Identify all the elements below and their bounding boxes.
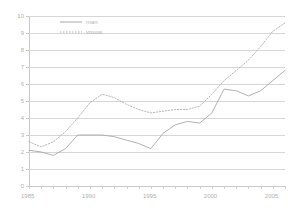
x-tick-mark: [78, 186, 79, 189]
x-tick-mark: [273, 186, 274, 189]
y-tick-label: 6: [21, 81, 24, 87]
x-tick-mark: [200, 186, 201, 189]
x-tick-mark: [53, 186, 54, 189]
x-tick-mark: [90, 186, 91, 189]
y-tick-label: 3: [21, 132, 24, 138]
x-tick-mark: [66, 186, 67, 189]
x-tick-label: 1995: [143, 193, 156, 200]
legend-item-man: man: [60, 18, 102, 26]
x-tick-mark: [29, 186, 30, 189]
x-tick-mark: [236, 186, 237, 189]
y-tick-label: 1: [21, 166, 24, 172]
x-tick-mark: [175, 186, 176, 189]
x-tick-mark: [285, 186, 286, 189]
legend-line-solid-icon: [60, 20, 82, 24]
x-tick-mark: [187, 186, 188, 189]
legend-line-dotted-icon: [60, 30, 82, 34]
plot-area: [29, 16, 285, 186]
y-tick-label: 0: [21, 183, 24, 189]
x-tick-mark: [151, 186, 152, 189]
x-tick-mark: [102, 186, 103, 189]
x-tick-mark: [224, 186, 225, 189]
legend-label-vrouw: vrouw: [86, 29, 102, 36]
x-tick-mark: [127, 186, 128, 189]
y-tick-label: 5: [21, 98, 24, 104]
line-chart: 012345678910 19851990199520002005 man vr…: [0, 0, 294, 224]
x-tick-mark: [139, 186, 140, 189]
x-tick-mark: [248, 186, 249, 189]
x-tick-mark: [114, 186, 115, 189]
x-tick-label: 2005: [265, 193, 278, 200]
y-tick-label: 9: [21, 30, 24, 36]
series-layer: [29, 16, 285, 186]
legend: man vrouw: [60, 18, 102, 36]
x-tick-mark: [212, 186, 213, 189]
y-tick-label: 10: [17, 13, 24, 19]
x-tick-mark: [163, 186, 164, 189]
y-tick-label: 2: [21, 149, 24, 155]
x-tick-label: 1985: [21, 193, 34, 200]
x-tick-label: 1990: [82, 193, 95, 200]
y-tick-label: 8: [21, 47, 24, 53]
x-tick-mark: [41, 186, 42, 189]
y-tick-label: 7: [21, 64, 24, 70]
x-axis-line: [29, 186, 285, 187]
x-tick-label: 2000: [204, 193, 217, 200]
series-line-man: [29, 70, 285, 155]
x-tick-mark: [261, 186, 262, 189]
legend-label-man: man: [86, 19, 98, 26]
y-tick-label: 4: [21, 115, 24, 121]
legend-item-vrouw: vrouw: [60, 28, 102, 36]
series-line-vrouw: [29, 23, 285, 147]
